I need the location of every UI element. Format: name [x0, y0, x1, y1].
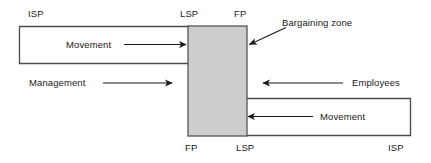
label-employees-fp: FP: [185, 143, 197, 153]
label-bargaining-zone: Bargaining zone: [282, 18, 352, 28]
bargaining-zone-callout-arrow: [250, 28, 287, 45]
label-employees: Employees: [352, 78, 400, 88]
label-movement-top: Movement: [66, 40, 111, 50]
label-management-isp: ISP: [28, 9, 44, 19]
label-movement-bottom: Movement: [320, 112, 365, 122]
label-management-lsp: LSP: [180, 9, 198, 19]
label-management-fp: FP: [234, 9, 246, 19]
bargaining-zone-rect: [188, 26, 247, 136]
label-management: Management: [29, 78, 85, 88]
bargaining-zone-diagram: ISP LSP FP FP LSP ISP Movement Managemen…: [0, 0, 431, 163]
label-employees-isp: ISP: [388, 143, 404, 153]
label-employees-lsp: LSP: [236, 143, 254, 153]
